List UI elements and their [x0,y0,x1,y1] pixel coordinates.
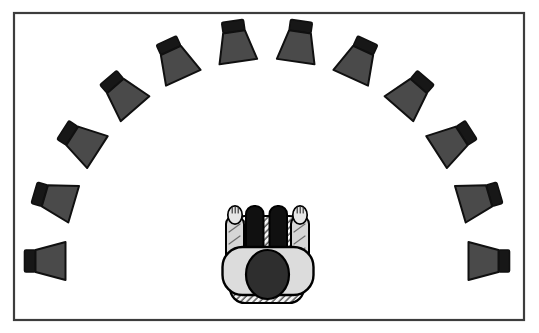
loudspeaker-icon-7 [214,18,257,64]
loudspeaker-icon-8 [149,33,201,86]
speaker-cone [215,29,257,64]
speaker-cone [469,242,499,280]
speaker-cone [277,29,319,64]
diagram-svg [0,0,539,333]
listener-head [246,250,289,299]
loudspeaker-icon-5 [333,33,385,86]
speaker-back [499,250,510,272]
figure-canvas [0,0,539,333]
loudspeaker-icon-6 [277,18,320,64]
loudspeaker-icon-12 [25,242,66,280]
loudspeaker-icon-11 [29,174,79,222]
loudspeaker-icon-4 [385,65,441,121]
loudspeaker-icon-3 [426,114,481,168]
loudspeaker-icon-10 [53,114,108,168]
speaker-cone [36,242,66,280]
loudspeaker-icon-1 [469,242,510,280]
listener-figure [223,206,314,303]
speaker-back [25,250,36,272]
loudspeaker-icon-2 [455,174,505,222]
loudspeaker-icon-9 [94,65,150,121]
